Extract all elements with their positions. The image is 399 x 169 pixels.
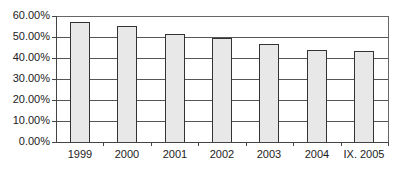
y-tick-label: 50.00%: [0, 30, 50, 42]
bar-1999: [70, 22, 90, 143]
y-tick-label: 0.00%: [0, 135, 50, 147]
bar-2002: [212, 38, 232, 143]
x-tick-label: IX. 2005: [339, 148, 389, 160]
bar-2001: [165, 34, 185, 143]
x-tick-label: 2004: [292, 148, 342, 160]
bar-chart: 0.00%10.00%20.00%30.00%40.00%50.00%60.00…: [0, 0, 399, 169]
y-tick-label: 40.00%: [0, 51, 50, 63]
y-tick-label: 20.00%: [0, 93, 50, 105]
bar-2000: [117, 26, 137, 143]
x-tick-label: 2002: [197, 148, 247, 160]
x-tick-label: 2001: [150, 148, 200, 160]
bar-2004: [307, 50, 327, 143]
y-tick-label: 30.00%: [0, 72, 50, 84]
bar-ix2005: [354, 51, 374, 143]
x-axis: [56, 142, 388, 143]
x-tick-label: 2003: [244, 148, 294, 160]
x-tick-mark: [388, 142, 389, 146]
x-tick-label: 1999: [55, 148, 105, 160]
y-tick-label: 10.00%: [0, 114, 50, 126]
bar-2003: [259, 44, 279, 143]
x-tick-label: 2000: [102, 148, 152, 160]
y-tick-label: 60.00%: [0, 9, 50, 21]
y-axis: [56, 16, 57, 143]
